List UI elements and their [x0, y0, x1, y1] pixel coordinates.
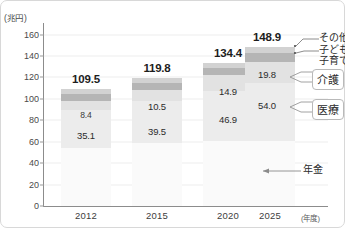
- bar-2015-segment-other: [132, 78, 182, 83]
- callout-pension: 年金: [303, 164, 323, 175]
- bar-2012-total-label: 109.5: [72, 73, 100, 85]
- bar-2020-medical-label: 46.9: [219, 114, 237, 125]
- x-tick-label-2025: 2025: [259, 210, 281, 221]
- bar-2015-segment-nursing: [132, 90, 182, 101]
- y-tick-mark-120: [40, 77, 44, 78]
- bar-2025-segment-other: [245, 47, 295, 53]
- y-tick-label-160: 160: [1, 30, 39, 40]
- bar-2012: [61, 89, 111, 206]
- y-tick-mark-80: [40, 120, 44, 121]
- bar-2025-segment-children: [245, 53, 295, 62]
- bar-2025-total-label: 148.9: [253, 31, 281, 43]
- bar-2025-medical-label: 54.0: [258, 100, 276, 111]
- bar-2012-segment-pension: [61, 148, 111, 206]
- y-tick-label-100: 100: [1, 94, 39, 104]
- x-tick-label-2012: 2012: [75, 210, 97, 221]
- x-axis-line: [43, 206, 328, 207]
- y-tick-label-120: 120: [1, 72, 39, 82]
- bar-2015-segment-children: [132, 83, 182, 90]
- bar-2020-total-label: 134.4: [214, 47, 242, 59]
- y-tick-label-40: 40: [1, 158, 39, 168]
- y-tick-label-60: 60: [1, 137, 39, 147]
- bar-2012-nursing-label: 8.4: [80, 110, 92, 120]
- bar-2012-segment-children: [61, 94, 111, 101]
- callout-other: その他: [319, 32, 345, 43]
- bar-2012-segment-nursing: [61, 101, 111, 110]
- bar-2015-nursing-label: 10.5: [148, 101, 166, 112]
- bar-2025-segment-medical: [245, 83, 295, 141]
- y-tick-label-140: 140: [1, 51, 39, 61]
- y-tick-mark-140: [40, 56, 44, 57]
- y-tick-mark-20: [40, 185, 44, 186]
- y-axis-line: [43, 23, 44, 207]
- x-tick-label-2015: 2015: [146, 210, 168, 221]
- bar-2012-medical-label: 35.1: [77, 130, 95, 141]
- bar-2015-medical-label: 39.5: [148, 126, 166, 137]
- y-tick-mark-160: [40, 35, 44, 36]
- y-tick-mark-40: [40, 163, 44, 164]
- y-tick-mark-60: [40, 142, 44, 143]
- gridline-160: [44, 35, 328, 36]
- bar-2015-segment-pension: [132, 143, 182, 206]
- bar-2012-segment-other: [61, 89, 111, 94]
- bar-2025-segment-pension: [245, 141, 295, 206]
- y-tick-label-20: 20: [1, 180, 39, 190]
- social-security-cost-chart: (兆円) 160 140 120 100 80 60 40 20 0 109.5…: [0, 0, 345, 228]
- x-tick-label-2020: 2020: [217, 210, 239, 221]
- y-axis-unit-label: (兆円): [4, 11, 26, 23]
- callout-nursing-box: 介護: [312, 69, 344, 90]
- y-tick-mark-100: [40, 99, 44, 100]
- y-tick-label-0: 0: [1, 201, 39, 211]
- bar-2015: [132, 78, 182, 206]
- y-tick-mark-0: [40, 206, 44, 207]
- bar-2015-total-label: 119.8: [143, 62, 170, 74]
- bar-2025-nursing-label: 19.8: [258, 69, 276, 80]
- callout-children-line1: 子ども・: [319, 44, 345, 55]
- callout-children-line2: 子育て: [319, 55, 345, 66]
- bar-2020-nursing-label: 14.9: [219, 86, 237, 97]
- y-tick-label-80: 80: [1, 115, 39, 125]
- x-axis-unit-label: (年度): [301, 212, 320, 223]
- callout-medical-box: 医療: [312, 99, 344, 120]
